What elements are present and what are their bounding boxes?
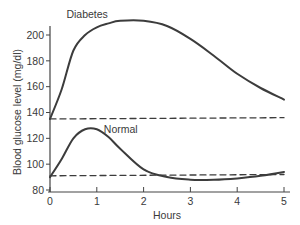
- x-tick-label: 1: [94, 195, 100, 207]
- y-axis-label: Blood glucose level (mg/dl): [11, 49, 23, 175]
- x-tick-label: 0: [47, 195, 53, 207]
- y-tick-label: 160: [26, 80, 44, 92]
- x-tick-label: 2: [141, 195, 147, 207]
- diabetes-label: Diabetes: [66, 8, 107, 20]
- x-tick-label: 4: [234, 195, 240, 207]
- x-tick-label: 3: [187, 195, 193, 207]
- series-group: [50, 20, 284, 180]
- normal-line: [50, 128, 284, 180]
- normal-baseline-line: [50, 175, 284, 176]
- y-tick-label: 180: [26, 55, 44, 67]
- x-tick-label: 5: [281, 195, 287, 207]
- x-axis-label: Hours: [153, 209, 181, 221]
- diabetes-line: [50, 20, 284, 119]
- y-tick-label: 100: [26, 158, 44, 170]
- normal-label: Normal: [104, 123, 138, 135]
- y-tick-label: 120: [26, 132, 44, 144]
- diabetes-baseline-line: [50, 118, 284, 119]
- y-tick-label: 140: [26, 106, 44, 118]
- axes: 80100120140160180200012345: [26, 26, 290, 207]
- y-tick-label: 80: [32, 184, 44, 196]
- glucose-chart: 80100120140160180200012345 HoursBlood gl…: [0, 0, 300, 225]
- y-tick-label: 200: [26, 29, 44, 41]
